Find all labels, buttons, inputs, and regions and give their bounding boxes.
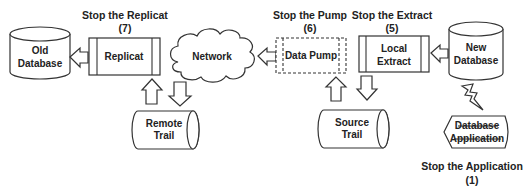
lightning-bolt-icon — [462, 84, 483, 110]
stop-replicat-step: (7) — [119, 22, 132, 34]
local-extract-label-2: Extract — [377, 56, 412, 67]
remote-trail-label-2: Trail — [154, 130, 175, 141]
stop-application-label: Stop the Application — [421, 160, 523, 172]
source-trail-label-2: Trail — [342, 129, 363, 140]
new-database-node: New Database — [449, 22, 503, 80]
arrow-left-icon — [70, 48, 88, 67]
database-application-node: Database Application — [444, 116, 508, 148]
network-label: Network — [192, 51, 232, 62]
migration-diagram: Old Database Stop the Replicat (7) Repli… — [0, 0, 523, 196]
old-database-label-2: Database — [18, 58, 63, 69]
replicat-label: Replicat — [105, 51, 145, 62]
old-database-label-1: Old — [32, 45, 49, 56]
remote-trail-node: Remote Trail — [132, 111, 199, 149]
stop-extract-step: (5) — [386, 22, 399, 34]
local-extract-label-1: Local — [381, 43, 407, 54]
new-database-label-2: Database — [454, 55, 499, 66]
stop-pump-label: Stop the Pump — [273, 9, 347, 21]
arrow-down-icon — [169, 82, 191, 106]
new-database-label-1: New — [466, 42, 487, 53]
remote-trail-label-1: Remote — [146, 118, 183, 129]
arrow-left-icon — [258, 48, 276, 65]
network-cloud-node: Network — [171, 29, 255, 82]
arrow-up-icon — [142, 79, 162, 104]
data-pump-node: Data Pump — [276, 38, 346, 73]
data-pump-label: Data Pump — [285, 50, 337, 61]
replicat-node: Replicat — [89, 38, 160, 75]
arrow-down-icon — [357, 76, 377, 100]
stop-replicat-label: Stop the Replicat — [82, 9, 168, 21]
stop-application-step: (1) — [466, 174, 479, 186]
stop-pump-step: (6) — [304, 22, 317, 34]
arrow-up-icon — [326, 77, 346, 101]
source-trail-label-1: Source — [335, 117, 369, 128]
arrow-left-icon — [431, 45, 448, 62]
stop-extract-label: Stop the Extract — [352, 9, 433, 21]
local-extract-node: Local Extract — [359, 36, 429, 72]
old-database-node: Old Database — [10, 27, 70, 79]
source-trail-node: Source Trail — [318, 110, 389, 148]
